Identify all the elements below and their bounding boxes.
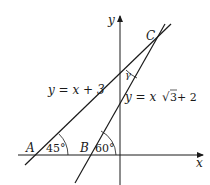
angle-label-45: 45° (46, 142, 66, 155)
sqrt-symbol: √ (162, 90, 170, 104)
point-label-c: C (146, 29, 155, 43)
point-label-b: B (79, 141, 89, 155)
angle-label-gamma: γ (125, 69, 131, 80)
y-axis-label: y (107, 13, 115, 27)
svg-text:y = x: y = x (124, 90, 156, 104)
equation-line2-suffix: + 2 (177, 91, 197, 104)
point-label-a: A (25, 141, 35, 155)
equation-line1: y = x + 3 (47, 83, 105, 97)
equation-line2: y = x √ 3 + 2 (124, 90, 197, 104)
angle-label-60: 60° (95, 142, 115, 155)
sqrt-argument: 3 (170, 91, 177, 104)
line-diagram: y x C A B 45° 60° γ y = x + 3 y = x √ 3 … (0, 0, 210, 185)
x-axis-label: x (196, 156, 203, 170)
